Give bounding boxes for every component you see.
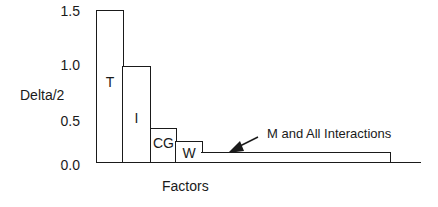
annotation-label: M and All Interactions [267,126,391,141]
x-axis-label: Factors [162,178,209,194]
annotation-arrow-icon [0,0,438,207]
